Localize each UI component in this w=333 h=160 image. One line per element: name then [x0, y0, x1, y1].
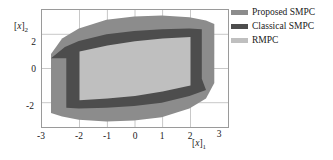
x-tick-label-neg1: -1	[96, 132, 118, 142]
plot-svg	[42, 10, 228, 127]
legend-item-rmpc[interactable]: RMPC	[231, 34, 331, 47]
x-tick-label-1: 1	[151, 132, 173, 142]
x-axis-title-sub: 1	[203, 143, 207, 151]
legend-swatch-classical-smpc	[231, 24, 248, 29]
legend: Proposed SMPC Classical SMPC RMPC	[231, 6, 331, 48]
legend-label-classical-smpc: Classical SMPC	[252, 22, 314, 32]
x-tick-label-neg2: -2	[68, 132, 90, 142]
y-axis-title-var: x	[17, 21, 21, 31]
y-tick-label-neg2: -2	[12, 102, 34, 112]
legend-label-rmpc: RMPC	[252, 36, 278, 46]
legend-item-proposed-smpc[interactable]: Proposed SMPC	[231, 6, 331, 19]
y-axis-title: [x]2	[14, 22, 28, 34]
y-tick-label-0: 0	[14, 65, 36, 75]
x-tick-label-3: 3	[208, 130, 230, 140]
x-axis-title-var: x	[195, 138, 199, 148]
plot-area	[41, 9, 229, 128]
x-axis-title: [x]1	[192, 139, 206, 151]
legend-label-proposed-smpc: Proposed SMPC	[252, 8, 315, 18]
x-tick-label-0: 0	[124, 132, 146, 142]
y-tick-label-2: 2	[14, 38, 36, 48]
legend-swatch-proposed-smpc	[231, 10, 248, 15]
x-tick-label-neg3: -3	[30, 132, 52, 142]
y-axis-title-sub: 2	[25, 26, 29, 34]
legend-item-classical-smpc[interactable]: Classical SMPC	[231, 20, 331, 33]
figure-container: [x]2 2 0 -2 -3 -2 -1 0 1 2	[0, 0, 333, 160]
legend-swatch-rmpc	[231, 38, 248, 43]
